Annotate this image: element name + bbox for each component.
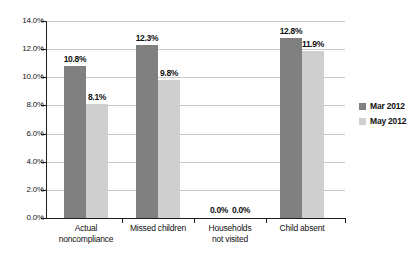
bar-mar-2012 xyxy=(64,66,86,218)
bar-value-label: 0.0% xyxy=(221,206,261,215)
bar-value-label: 12.3% xyxy=(127,34,167,43)
bar-may-2012 xyxy=(158,80,180,218)
legend-item-label: May 2012 xyxy=(370,117,406,126)
bar-value-label: 10.8% xyxy=(55,55,95,64)
y-axis-tick-label: 6.0% xyxy=(4,130,44,138)
legend-swatch-icon xyxy=(359,103,366,110)
bar-value-label: 11.9% xyxy=(293,40,333,49)
bar-may-2012 xyxy=(302,51,324,218)
bar-chart: 0.0%2.0%4.0%6.0%8.0%10.0%12.0%14.0% 10.8… xyxy=(0,0,415,265)
bar-value-label: 12.8% xyxy=(271,27,311,36)
bar-mar-2012 xyxy=(280,38,302,218)
legend-swatch-icon xyxy=(359,118,366,125)
y-axis-tick-label: 2.0% xyxy=(4,186,44,194)
legend-item-label: Mar 2012 xyxy=(370,102,405,111)
y-axis-tick-label: 12.0% xyxy=(4,45,44,53)
bar-value-label: 9.8% xyxy=(149,69,189,78)
legend-item[interactable]: May 2012 xyxy=(359,115,406,128)
x-axis-category-label: Child absent xyxy=(257,223,347,234)
bar-value-label: 8.1% xyxy=(77,93,117,102)
y-axis-tick-label: 10.0% xyxy=(4,73,44,81)
bar-may-2012 xyxy=(86,104,108,218)
plot-area xyxy=(46,21,345,218)
y-axis-tick-label: 0.0% xyxy=(4,214,44,222)
x-axis-line xyxy=(46,218,346,219)
legend: Mar 2012May 2012 xyxy=(359,100,406,130)
legend-item[interactable]: Mar 2012 xyxy=(359,100,406,113)
y-axis-tick-label: 14.0% xyxy=(4,17,44,25)
y-axis-tick-label: 4.0% xyxy=(4,158,44,166)
y-axis-tick-label: 8.0% xyxy=(4,101,44,109)
